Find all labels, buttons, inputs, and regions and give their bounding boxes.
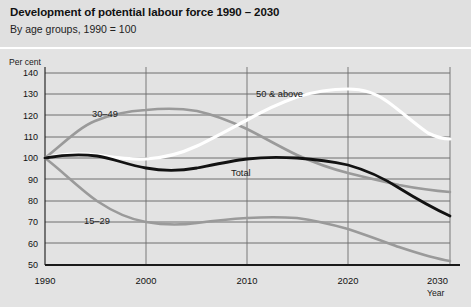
series-label-30-49: 30–49	[92, 109, 118, 119]
series-label-15-29: 15–29	[84, 216, 110, 226]
chart-canvas	[0, 49, 471, 307]
series-label-total: Total	[231, 168, 251, 178]
page-title: Development of potential labour force 19…	[10, 6, 279, 18]
chart-header: Development of potential labour force 19…	[0, 0, 471, 47]
page-subtitle: By age groups, 1990 = 100	[10, 23, 136, 35]
axis-lines	[45, 67, 460, 265]
series-label-50-above: 50 & above	[256, 89, 303, 99]
chart-page: Development of potential labour force 19…	[0, 0, 471, 307]
plot-area: Per cent Year 140 130 120 110 100 90 80 …	[0, 49, 471, 307]
series-line-50-above	[45, 89, 450, 159]
